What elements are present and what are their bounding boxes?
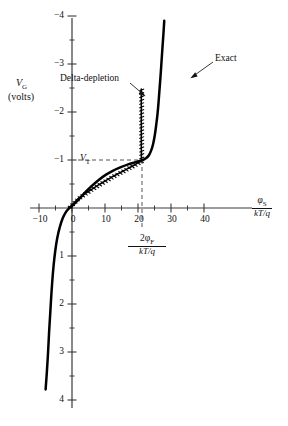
exact-arrowhead — [190, 72, 197, 78]
annotation-arrows-group — [130, 62, 213, 96]
y-tick-label: 1 — [48, 251, 64, 261]
x-tick-label: 20 — [129, 215, 149, 225]
y-tick-label: −3 — [48, 59, 64, 69]
y-axis-title-subscript: G — [22, 83, 27, 91]
x-axis-title-denominator: kT/q — [252, 208, 272, 218]
vt-subscript: T — [86, 158, 90, 166]
figure-mos-vg-vs-phis: VG (volts) φS kT/q VT 2φF kT/q Delta-dep… — [0, 0, 288, 426]
phif-numerator-lead: 2φ — [140, 233, 150, 243]
y-axis-units: (volts) — [8, 92, 34, 102]
chart-canvas — [0, 0, 288, 426]
y-tick-label: −1 — [48, 155, 64, 165]
x-axis-title: φS kT/q — [252, 196, 272, 219]
phif-label: 2φF kT/q — [128, 234, 166, 257]
y-tick-label: −2 — [48, 107, 64, 117]
y-tick-label: 3 — [48, 347, 64, 357]
x-tick-label: −10 — [30, 215, 50, 225]
y-tick-label: −4 — [48, 11, 64, 21]
vt-label: VT — [80, 154, 90, 166]
phif-numerator-subscript: F — [150, 238, 154, 246]
x-tick-label: 0 — [63, 215, 83, 225]
x-axis-title-numerator: φS — [252, 196, 272, 208]
x-tick-label: 10 — [96, 215, 116, 225]
x-tick-label: 30 — [162, 215, 182, 225]
phif-denominator: kT/q — [128, 246, 166, 256]
y-tick-label: 2 — [48, 299, 64, 309]
annotation-delta-depletion: Delta-depletion — [60, 74, 119, 84]
curve-delta-depletion — [69, 89, 142, 208]
phif-numerator: 2φF — [128, 234, 166, 246]
y-tick-label: 4 — [48, 395, 64, 405]
annotation-exact: Exact — [215, 54, 237, 64]
curve-delta-depletion-hatching — [68, 89, 144, 208]
x-axis-phi-subscript: S — [263, 200, 267, 208]
y-axis-title: VG — [16, 78, 27, 91]
x-tick-label: 40 — [195, 215, 215, 225]
